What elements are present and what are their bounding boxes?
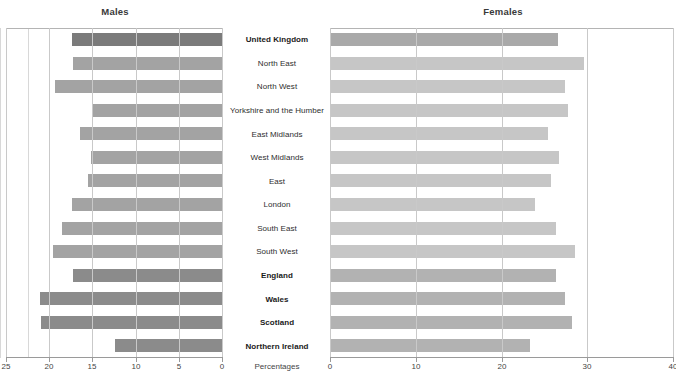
chart-page: Males Females United KingdomNorth EastNo… <box>0 0 676 381</box>
gridline <box>222 28 223 358</box>
bar-females-east-midlands <box>330 127 548 140</box>
category-label-yorkshire-and-the-humber: Yorkshire and the Humber <box>224 99 330 123</box>
gridline <box>136 28 137 358</box>
bar-row <box>6 240 222 264</box>
category-label-wales: Wales <box>224 287 330 311</box>
bar-row <box>6 334 222 358</box>
gridline <box>330 28 331 358</box>
bar-males-scotland <box>41 316 222 329</box>
bar-males-south-west <box>53 245 222 258</box>
tick-label: 10 <box>412 362 421 371</box>
gridline <box>49 28 50 358</box>
tick-label: 30 <box>583 362 592 371</box>
panel-header-females: Females <box>330 6 676 17</box>
tick-label: 10 <box>132 362 141 371</box>
bar-males-england <box>73 269 222 282</box>
category-label-text: London <box>264 200 291 209</box>
category-label-text: Northern Ireland <box>245 342 308 351</box>
category-label-north-west: North West <box>224 75 330 99</box>
bar-row <box>6 264 222 288</box>
bar-males-east <box>88 174 222 187</box>
x-axis-caption: Percentages <box>230 362 324 371</box>
tick-label: 40 <box>669 362 676 371</box>
bar-females-england <box>330 269 556 282</box>
bar-males-west-midlands <box>91 151 222 164</box>
x-axis-ticks-males: 2520151050 <box>6 362 222 376</box>
bar-row <box>6 122 222 146</box>
gridline <box>673 28 674 358</box>
plot-area-males <box>6 28 222 358</box>
bar-row <box>6 99 222 123</box>
category-label-text: North West <box>257 82 297 91</box>
category-label-text: East Midlands <box>252 130 303 139</box>
category-label-text: England <box>261 271 293 280</box>
bar-males-london <box>72 198 222 211</box>
category-label-text: West Midlands <box>251 153 304 162</box>
bar-females-south-east <box>330 222 556 235</box>
bar-females-south-west <box>330 245 575 258</box>
category-label-london: London <box>224 193 330 217</box>
bar-males-yorkshire-and-the-humber <box>92 104 222 117</box>
category-label-text: South East <box>257 224 297 233</box>
bar-row <box>6 75 222 99</box>
category-label-north-east: North East <box>224 52 330 76</box>
gridline <box>416 28 417 358</box>
bar-females-united-kingdom <box>330 33 558 46</box>
bar-row <box>6 146 222 170</box>
bar-females-east <box>330 174 551 187</box>
category-label-south-west: South West <box>224 240 330 264</box>
category-label-west-midlands: West Midlands <box>224 146 330 170</box>
bar-males-united-kingdom <box>72 33 222 46</box>
gridline <box>502 28 503 358</box>
category-label-text: Scotland <box>260 318 294 327</box>
bar-males-north-east <box>73 57 222 70</box>
category-label-east: East <box>224 169 330 193</box>
bar-males-south-east <box>62 222 222 235</box>
bar-females-northern-ireland <box>330 339 530 352</box>
category-label-text: Yorkshire and the Humber <box>230 106 324 115</box>
bar-row <box>6 217 222 241</box>
tick-label: 20 <box>498 362 507 371</box>
bar-females-north-west <box>330 80 565 93</box>
bar-females-west-midlands <box>330 151 559 164</box>
tick-label: 25 <box>2 362 11 371</box>
bar-row <box>6 287 222 311</box>
tick-label: 15 <box>88 362 97 371</box>
category-label-column: United KingdomNorth EastNorth WestYorksh… <box>224 28 330 358</box>
bar-females-scotland <box>330 316 572 329</box>
category-label-text: Wales <box>265 295 288 304</box>
bar-males-east-midlands <box>80 127 222 140</box>
gridline <box>587 28 588 358</box>
gridline <box>92 28 93 358</box>
x-axis-ticks-females: 010203040 <box>330 362 673 376</box>
bar-females-wales <box>330 292 565 305</box>
category-label-east-midlands: East Midlands <box>224 122 330 146</box>
gridline <box>179 28 180 358</box>
gridline <box>6 28 7 358</box>
category-label-northern-ireland: Northern Ireland <box>224 334 330 358</box>
category-label-text: United Kingdom <box>246 35 308 44</box>
tick-label: 0 <box>220 362 224 371</box>
category-label-scotland: Scotland <box>224 311 330 335</box>
tick-label: 20 <box>45 362 54 371</box>
tick-label: 0 <box>328 362 332 371</box>
bar-males-north-west <box>55 80 222 93</box>
plot-area-females <box>330 28 673 358</box>
bar-row <box>6 193 222 217</box>
bar-rows-males <box>6 28 222 358</box>
outer-rule-left <box>0 28 1 358</box>
bar-females-yorkshire-and-the-humber <box>330 104 568 117</box>
category-label-text: South West <box>256 247 298 256</box>
bar-females-london <box>330 198 535 211</box>
category-label-text: East <box>269 177 285 186</box>
tick-label: 5 <box>177 362 181 371</box>
category-label-england: England <box>224 264 330 288</box>
bar-row <box>6 169 222 193</box>
bar-row <box>6 28 222 52</box>
category-label-south-east: South East <box>224 217 330 241</box>
bar-females-north-east <box>330 57 584 70</box>
bar-males-wales <box>40 292 222 305</box>
category-label-united-kingdom: United Kingdom <box>224 28 330 52</box>
bar-row <box>6 52 222 76</box>
bar-males-northern-ireland <box>115 339 222 352</box>
